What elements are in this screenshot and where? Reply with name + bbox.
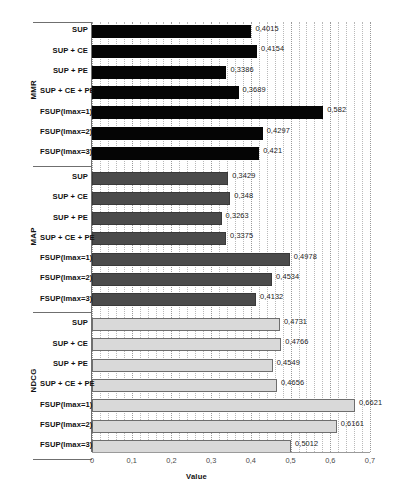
category-label: FSUP(lmax=2) [40, 127, 88, 136]
bar-value-label: 0,4549 [277, 358, 300, 367]
bar-value-label: 0,4154 [261, 44, 284, 53]
category-label: SUP + PE [40, 213, 88, 222]
bar-group-map: 0,34290,3480,32630,33750,49780,45340,413… [92, 169, 370, 312]
bar-value-label: 0,3689 [243, 85, 266, 94]
bar[interactable] [92, 86, 239, 99]
x-tick-label: 0,6 [325, 456, 335, 465]
bar[interactable] [92, 359, 273, 372]
bar-row: 0,3429 [92, 169, 370, 189]
bar-row: 0,6161 [92, 417, 370, 437]
bar[interactable] [92, 232, 226, 245]
x-tick-label: 0,5 [285, 456, 295, 465]
bar-value-label: 0,6621 [359, 398, 382, 407]
category-label: FSUP(lmax=2) [40, 273, 88, 282]
bar[interactable] [92, 66, 226, 79]
bar-chart: 0,40150,41540,33860,36890,5820,42970,421… [0, 0, 393, 494]
gridline [370, 22, 372, 452]
bar-value-label: 0,4015 [255, 24, 278, 33]
group-title-map: MAP [26, 234, 40, 246]
x-tick-label: 0,4 [246, 456, 256, 465]
bar-row: 0,4154 [92, 42, 370, 62]
group-title-ndcg: NDCG [26, 381, 40, 393]
bar-row: 0,348 [92, 189, 370, 209]
bar-row: 0,582 [92, 103, 370, 123]
plot-area: 0,40150,41540,33860,36890,5820,42970,421… [92, 22, 370, 452]
bar-row: 0,3689 [92, 83, 370, 103]
bar-value-label: 0,5012 [295, 439, 318, 448]
bar[interactable] [92, 192, 230, 205]
bar[interactable] [92, 293, 256, 306]
bar[interactable] [92, 212, 222, 225]
bar-value-label: 0,4132 [260, 292, 283, 301]
bar-value-label: 0,3386 [230, 65, 253, 74]
bar-group-mmr: 0,40150,41540,33860,36890,5820,42970,421 [92, 22, 370, 165]
group-title-text: MMR [29, 85, 38, 99]
bar-row: 0,4534 [92, 270, 370, 290]
group-title-text: NDCG [29, 378, 38, 392]
x-tick-label: 0,1 [127, 456, 137, 465]
group-separator [33, 459, 92, 460]
category-label: SUP [40, 172, 88, 181]
category-label: SUP [40, 318, 88, 327]
x-tick-label: 0 [90, 456, 94, 465]
bar[interactable] [92, 172, 228, 185]
category-label: SUP + CE [40, 192, 88, 201]
category-label: FSUP(lmax=2) [40, 420, 88, 429]
category-label: SUP + CE + PE [40, 86, 88, 95]
bar[interactable] [92, 127, 263, 140]
category-label: FSUP(lmax=1) [40, 107, 88, 116]
group-separator [33, 22, 92, 23]
bar-row: 0,3263 [92, 209, 370, 229]
bar-row: 0,4766 [92, 335, 370, 355]
x-tick-label: 0,7 [365, 456, 375, 465]
bar-row: 0,4978 [92, 250, 370, 270]
x-axis-title: Value [0, 472, 393, 481]
bar-value-label: 0,582 [327, 105, 346, 114]
bar-value-label: 0,4731 [284, 317, 307, 326]
bar-value-label: 0,348 [234, 191, 253, 200]
bar-row: 0,4549 [92, 356, 370, 376]
category-label: FSUP(lmax=1) [40, 253, 88, 262]
bar-value-label: 0,4656 [281, 378, 304, 387]
group-separator [33, 166, 92, 167]
bar[interactable] [92, 45, 257, 58]
category-label: SUP [40, 25, 88, 34]
group-separator [33, 312, 92, 313]
bar[interactable] [92, 318, 280, 331]
bar-value-label: 0,3429 [232, 171, 255, 180]
category-label: SUP + CE [40, 46, 88, 55]
bar-group-ndcg: 0,47310,47660,45490,46560,66210,61610,50… [92, 315, 370, 458]
bar[interactable] [92, 399, 355, 412]
bar[interactable] [92, 147, 259, 160]
bar-value-label: 0,4978 [294, 252, 317, 261]
bar[interactable] [92, 440, 291, 453]
bar[interactable] [92, 106, 323, 119]
bar-value-label: 0,4297 [267, 126, 290, 135]
bar-value-label: 0,421 [263, 146, 282, 155]
x-tick-label: 0,3 [206, 456, 216, 465]
x-axis-line [92, 452, 370, 453]
bar-row: 0,4132 [92, 290, 370, 310]
bar[interactable] [92, 338, 281, 351]
group-title-mmr: MMR [26, 88, 40, 100]
bar-row: 0,4731 [92, 315, 370, 335]
x-tick-label: 0,2 [166, 456, 176, 465]
category-label: SUP + CE + PE [40, 379, 88, 388]
category-label: FSUP(lmax=3) [40, 147, 88, 156]
bar[interactable] [92, 253, 290, 266]
bar-row: 0,6621 [92, 396, 370, 416]
bar-row: 0,4297 [92, 124, 370, 144]
category-label: FSUP(lmax=1) [40, 400, 88, 409]
bar-value-label: 0,6161 [341, 419, 364, 428]
bar-row: 0,3375 [92, 229, 370, 249]
bar[interactable] [92, 420, 337, 433]
bar[interactable] [92, 379, 277, 392]
group-title-text: MAP [29, 232, 38, 246]
bar[interactable] [92, 273, 272, 286]
bar-row: 0,4015 [92, 22, 370, 42]
category-label: SUP + CE [40, 339, 88, 348]
bar[interactable] [92, 25, 251, 38]
category-label: SUP + PE [40, 66, 88, 75]
category-label: SUP + CE + PE [40, 233, 88, 242]
bar-row: 0,421 [92, 144, 370, 164]
